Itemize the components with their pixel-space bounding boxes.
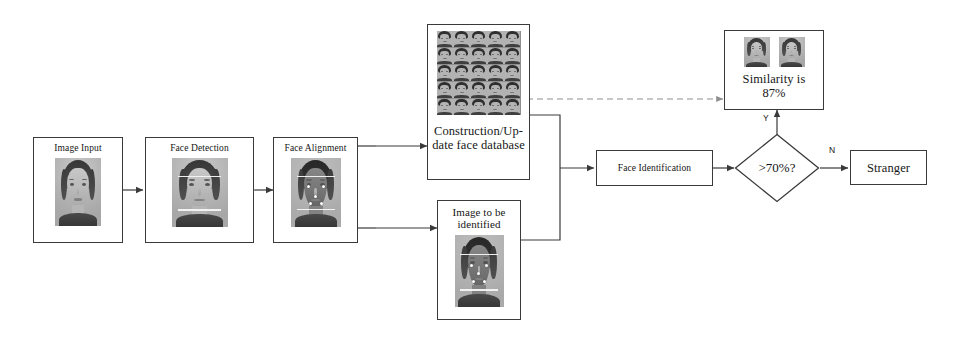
similarity-thumb-query: [744, 37, 770, 67]
db-thumb: [470, 48, 486, 64]
db-thumb: [504, 31, 520, 47]
portrait-photo-detected: [172, 158, 228, 227]
edge-label-yes: Y: [763, 113, 769, 123]
node-image-to-identify-label: Image to be identified: [452, 206, 505, 231]
flowchart-canvas: Image Input Face Detection Face Alignmen: [0, 0, 961, 339]
portrait-photo-aligned: [291, 158, 341, 227]
node-face-identification[interactable]: Face Identification: [596, 150, 713, 186]
node-image-input-label: Image Input: [54, 143, 101, 154]
portrait-photo-probe: [455, 235, 504, 307]
node-face-database-label: Construction/Up- date face database: [432, 124, 525, 152]
db-thumb: [504, 82, 520, 98]
landmark-mouth-right: [320, 202, 323, 205]
node-image-to-identify[interactable]: Image to be identified: [437, 200, 521, 320]
db-thumb: [487, 48, 503, 64]
node-threshold-decision[interactable]: >70%?: [734, 133, 820, 203]
detection-line-top: [178, 176, 221, 177]
node-similarity-result[interactable]: Similarity is 87%: [724, 30, 824, 110]
db-thumb: [437, 31, 453, 47]
node-face-alignment[interactable]: Face Alignment: [273, 137, 358, 243]
face-database-thumbnail-grid: [437, 31, 521, 115]
db-thumb: [470, 99, 486, 115]
similarity-thumbnail-pair: [744, 37, 805, 67]
db-thumb: [437, 65, 453, 81]
node-similarity-result-label: Similarity is 87%: [743, 72, 806, 100]
detection-line-bottom: [178, 209, 221, 210]
db-thumb: [437, 82, 453, 98]
node-stranger[interactable]: Stranger: [850, 150, 927, 185]
db-thumb: [453, 99, 469, 115]
db-thumb: [487, 82, 503, 98]
similarity-thumb-match: [779, 37, 805, 67]
db-thumb: [470, 31, 486, 47]
db-thumb: [470, 65, 486, 81]
db-thumb: [453, 82, 469, 98]
node-face-database[interactable]: Construction/Up- date face database: [427, 24, 530, 180]
edge-label-no: N: [829, 145, 835, 155]
portrait-photo-original: [55, 158, 101, 226]
db-thumb: [487, 99, 503, 115]
db-thumb: [437, 48, 453, 64]
db-thumb: [487, 65, 503, 81]
db-thumb: [504, 65, 520, 81]
db-thumb: [437, 99, 453, 115]
edge-database-to-merge: [530, 115, 560, 168]
node-face-alignment-label: Face Alignment: [285, 143, 347, 154]
node-image-input[interactable]: Image Input: [33, 137, 123, 243]
landmark-mouth-left: [472, 280, 475, 283]
db-thumb: [453, 65, 469, 81]
db-thumb: [487, 31, 503, 47]
node-stranger-label: Stranger: [867, 161, 910, 175]
db-thumb: [453, 31, 469, 47]
landmark-mouth-left: [309, 202, 312, 205]
db-thumb: [453, 48, 469, 64]
node-face-detection-label: Face Detection: [170, 143, 229, 154]
node-face-detection[interactable]: Face Detection: [145, 137, 254, 243]
db-thumb: [504, 48, 520, 64]
db-thumb: [504, 99, 520, 115]
node-threshold-decision-label: >70%?: [734, 133, 820, 203]
db-thumb: [470, 82, 486, 98]
node-face-identification-label: Face Identification: [618, 163, 691, 174]
